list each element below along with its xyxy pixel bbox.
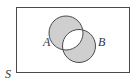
venn-diagram: A B S (0, 0, 134, 83)
set-b-label: B (98, 35, 106, 49)
universe-label: S (5, 67, 11, 81)
set-a-label: A (42, 35, 51, 49)
